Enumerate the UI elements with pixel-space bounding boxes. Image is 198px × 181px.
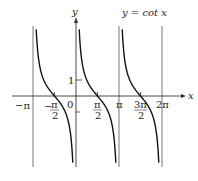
x-axis-label: x	[188, 90, 194, 101]
x-tick-neg-half-num: π	[51, 99, 58, 110]
chart-title: y = cot x	[121, 7, 167, 18]
plot-svg: y x y = cot x 1 −π − π 2 0 π 2 π 3π 2 2π	[0, 0, 198, 181]
x-axis-arrow-icon	[181, 94, 186, 98]
x-tick-neg-half-den: 2	[52, 110, 58, 121]
cot-curves	[36, 29, 159, 162]
x-tick-zero: 0	[67, 99, 73, 110]
y-axis-arrow-icon	[74, 17, 78, 23]
x-tick-3half-num: 3π	[134, 99, 147, 110]
x-tick-half-num: π	[94, 99, 101, 110]
x-tick-half-den: 2	[95, 110, 101, 121]
y-tick-1: 1	[68, 75, 74, 86]
x-tick-pi: π	[116, 99, 123, 110]
cot-graph: y x y = cot x 1 −π − π 2 0 π 2 π 3π 2 2π	[0, 0, 198, 181]
x-tick-2pi: 2π	[156, 99, 169, 110]
x-tick-3half-den: 2	[138, 110, 144, 121]
y-axis-label: y	[71, 6, 78, 17]
x-tick-neg-pi: −π	[15, 100, 30, 111]
